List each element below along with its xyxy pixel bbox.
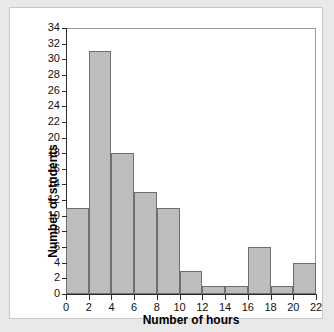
x-axis-tick-label: 4 [99, 302, 123, 313]
y-axis-tick [62, 59, 67, 60]
y-axis-tick-label: 34 [20, 22, 60, 33]
x-axis-tick-label: 20 [281, 302, 305, 313]
y-axis-title: Number of students [46, 116, 60, 286]
y-axis-tick [62, 231, 67, 232]
x-axis-tick [293, 295, 294, 300]
x-axis-tick [248, 295, 249, 300]
y-axis-tick [62, 91, 67, 92]
x-axis-tick [111, 295, 112, 300]
x-axis-tick-label: 18 [259, 302, 283, 313]
x-axis-tick-label: 14 [213, 302, 237, 313]
x-axis-tick-label: 22 [304, 302, 328, 313]
y-axis-tick-label: 0 [20, 288, 60, 299]
y-axis-tick [62, 75, 67, 76]
y-axis-tick [62, 278, 67, 279]
y-axis-tick [62, 247, 67, 248]
x-axis-tick [202, 295, 203, 300]
histogram-bar [66, 208, 89, 294]
x-axis-tick [157, 295, 158, 300]
histogram-bar [248, 247, 271, 294]
x-axis-tick-label: 12 [190, 302, 214, 313]
histogram-bar [225, 286, 248, 294]
x-axis-tick-label: 0 [54, 302, 78, 313]
y-axis-tick [62, 153, 67, 154]
histogram-bar [293, 263, 316, 294]
x-axis-tick-label: 6 [122, 302, 146, 313]
x-axis-tick-label: 2 [77, 302, 101, 313]
x-axis-tick [225, 295, 226, 300]
x-axis-tick [271, 295, 272, 300]
x-axis-tick [180, 295, 181, 300]
histogram-bar [157, 208, 180, 294]
y-axis-tick [62, 263, 67, 264]
y-axis-tick [62, 106, 67, 107]
histogram-bar [89, 51, 112, 294]
histogram-bar [202, 286, 225, 294]
histogram-bar [134, 192, 157, 294]
x-axis-tick-label: 16 [236, 302, 260, 313]
y-axis-tick-label: 32 [20, 38, 60, 49]
x-axis-title: Number of hours [66, 313, 316, 327]
y-axis-tick [62, 169, 67, 170]
x-axis-tick [89, 295, 90, 300]
y-axis-tick [62, 122, 67, 123]
y-axis-tick [62, 44, 67, 45]
page-background: 0246810121416182022242628303234 02468101… [0, 0, 334, 332]
y-axis-tick [62, 28, 67, 29]
histogram-bar [111, 153, 134, 294]
y-axis-tick [62, 200, 67, 201]
x-axis-tick [66, 295, 67, 300]
histogram-bar [180, 271, 203, 294]
y-axis-tick [62, 138, 67, 139]
x-axis-line [66, 294, 317, 295]
figure-panel: 0246810121416182022242628303234 02468101… [9, 7, 323, 319]
y-axis-title-wrap: Number of students [24, 68, 42, 248]
histogram-bar [271, 286, 294, 294]
y-axis-tick [62, 216, 67, 217]
x-axis-tick-label: 8 [145, 302, 169, 313]
x-axis-tick [316, 295, 317, 300]
x-axis-tick-label: 10 [168, 302, 192, 313]
y-axis-tick-label: 30 [20, 53, 60, 64]
x-axis-tick [134, 295, 135, 300]
histogram-chart: 0246810121416182022242628303234 02468101… [10, 8, 334, 332]
y-axis-tick [62, 184, 67, 185]
